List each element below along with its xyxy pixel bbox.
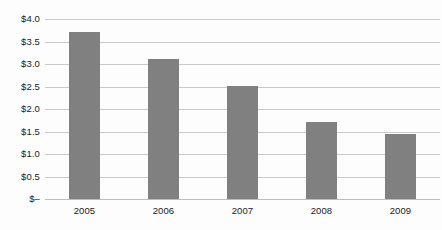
x-axis-tick-label: 2008 — [292, 206, 352, 216]
bar — [385, 134, 416, 199]
bar — [69, 32, 100, 199]
y-axis-tick-label: $– — [0, 194, 40, 204]
plot-area — [45, 19, 440, 199]
bar-chart: $4.0$3.5$3.0$2.5$2.0$1.5$1.0$0.5$–200520… — [0, 0, 442, 230]
y-axis-tick-label: $3.5 — [0, 37, 40, 47]
y-axis-tick-label: $2.0 — [0, 104, 40, 114]
x-axis-tick-label: 2009 — [371, 206, 431, 216]
y-axis-tick-label: $4.0 — [0, 14, 40, 24]
x-axis-tick-label: 2005 — [55, 206, 115, 216]
x-axis-tick-label: 2006 — [134, 206, 194, 216]
y-axis-tick-label: $2.5 — [0, 82, 40, 92]
y-axis-tick-label: $3.0 — [0, 59, 40, 69]
y-axis-tick-label: $0.5 — [0, 172, 40, 182]
gridline — [45, 42, 440, 43]
bar — [148, 59, 179, 199]
gridline — [45, 64, 440, 65]
y-axis-tick-label: $1.5 — [0, 127, 40, 137]
x-axis-tick-label: 2007 — [213, 206, 273, 216]
axis-baseline — [45, 199, 440, 200]
bar — [306, 122, 337, 199]
bar — [227, 86, 258, 199]
y-axis-tick-label: $1.0 — [0, 149, 40, 159]
gridline — [45, 19, 440, 20]
